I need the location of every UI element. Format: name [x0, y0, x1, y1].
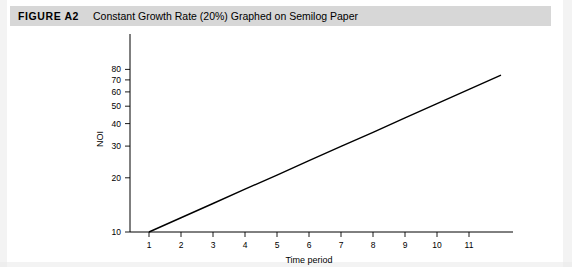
x-tick-label: 11 [465, 240, 474, 250]
x-tick-label: 6 [307, 240, 312, 250]
semilog-line-chart: 10 20 30 40 50 60 70 80 1 [0, 26, 572, 267]
x-axis-ticks: 1 2 3 4 5 6 7 8 9 10 [147, 232, 474, 250]
figure-header-bar: FIGURE A2 Constant Growth Rate (20%) Gra… [10, 6, 551, 26]
x-axis-title: Time period [285, 255, 332, 265]
figure-label: FIGURE A2 [18, 10, 79, 22]
y-tick-label: 60 [112, 87, 122, 97]
y-tick-label: 30 [112, 141, 122, 151]
y-tick-label: 20 [112, 173, 122, 183]
x-tick-label: 7 [339, 240, 344, 250]
x-tick-label: 2 [179, 240, 184, 250]
y-axis-ticks: 10 20 30 40 50 60 70 80 [112, 64, 130, 237]
y-axis-title: NOI [95, 131, 105, 147]
x-tick-label: 4 [243, 240, 248, 250]
chart-container: 10 20 30 40 50 60 70 80 1 [0, 26, 572, 267]
y-tick-label: 80 [112, 64, 122, 74]
x-tick-label: 9 [403, 240, 408, 250]
y-tick-label: 50 [112, 101, 122, 111]
figure-title: Constant Growth Rate (20%) Graphed on Se… [93, 10, 358, 22]
y-tick-label: 70 [112, 75, 122, 85]
data-series-noi [149, 75, 501, 232]
y-tick-label: 40 [112, 119, 122, 129]
x-tick-label: 5 [275, 240, 280, 250]
x-tick-label: 1 [147, 240, 152, 250]
y-tick-label: 10 [112, 227, 122, 237]
x-tick-label: 10 [432, 240, 442, 250]
figure-page: FIGURE A2 Constant Growth Rate (20%) Gra… [0, 0, 572, 267]
x-tick-label: 3 [211, 240, 216, 250]
x-tick-label: 8 [371, 240, 376, 250]
